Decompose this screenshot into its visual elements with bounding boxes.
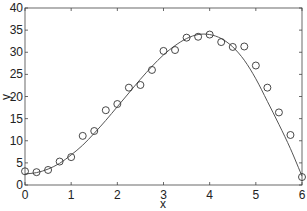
data-markers — [22, 31, 306, 180]
scatter-plot-with-fit: 0123456 0510152025303540 x y — [0, 0, 307, 211]
y-tick-label: 10 — [10, 134, 24, 148]
data-point-marker — [137, 81, 144, 88]
x-axis-ticks: 0123456 — [22, 8, 306, 202]
x-tick-label: 5 — [252, 188, 259, 202]
data-point-marker — [218, 39, 225, 46]
x-tick-label: 4 — [206, 188, 213, 202]
data-point-marker — [252, 62, 259, 69]
data-point-marker — [102, 107, 109, 114]
y-tick-label: 5 — [16, 156, 23, 170]
fit-curve-path — [25, 34, 302, 176]
data-point-marker — [160, 47, 167, 54]
data-point-marker — [125, 84, 132, 91]
data-point-marker — [264, 84, 271, 91]
x-tick-label: 1 — [68, 188, 75, 202]
y-tick-label: 15 — [10, 112, 24, 126]
x-axis-label: x — [160, 197, 166, 211]
data-point-marker — [148, 66, 155, 73]
y-tick-label: 40 — [10, 1, 24, 15]
y-tick-label: 30 — [10, 45, 24, 59]
y-tick-label: 0 — [16, 178, 23, 192]
data-point-marker — [241, 43, 248, 50]
data-point-marker — [275, 109, 282, 116]
y-tick-label: 25 — [10, 67, 24, 81]
y-axis-ticks: 0510152025303540 — [10, 1, 302, 192]
y-axis-label: y — [0, 94, 13, 100]
data-point-marker — [79, 132, 86, 139]
fit-curve — [25, 34, 302, 176]
data-point-marker — [287, 131, 294, 138]
x-tick-label: 2 — [114, 188, 121, 202]
x-tick-label: 6 — [299, 188, 306, 202]
y-tick-label: 35 — [10, 23, 24, 37]
data-point-marker — [172, 47, 179, 54]
